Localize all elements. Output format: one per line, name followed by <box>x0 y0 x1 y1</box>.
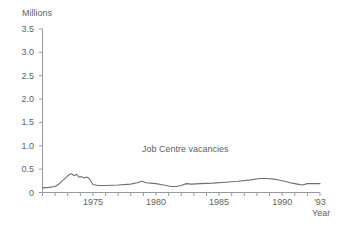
y-tick-label: 3.5 <box>8 24 34 34</box>
x-tick-label: 1985 <box>199 197 239 207</box>
x-tick-label: 1980 <box>136 197 176 207</box>
x-tick-label: '93 <box>300 197 340 207</box>
y-tick-label: 1.0 <box>8 141 34 151</box>
y-axis-ticks <box>39 29 43 193</box>
x-axis-title: Year <box>312 208 330 218</box>
vacancies-line-chart: Millions 3.53.02.52.01.51.00.50 19751980… <box>0 0 345 227</box>
data-series-job-centre-vacancies <box>43 174 321 188</box>
y-tick-label: 0 <box>8 188 34 198</box>
y-tick-label: 0.5 <box>8 164 34 174</box>
series-annotation-label: Job Centre vacancies <box>142 144 229 154</box>
y-tick-label: 2.5 <box>8 71 34 81</box>
x-tick-label: 1975 <box>73 197 113 207</box>
x-tick-label: 1990 <box>262 197 302 207</box>
chart-plot-area <box>0 0 345 227</box>
y-tick-label: 3.0 <box>8 47 34 57</box>
y-tick-label: 2.0 <box>8 94 34 104</box>
y-tick-label: 1.5 <box>8 117 34 127</box>
x-axis-ticks <box>43 193 321 197</box>
